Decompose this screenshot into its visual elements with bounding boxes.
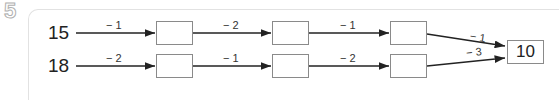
step-label: − 3 bbox=[465, 45, 482, 59]
answer-box[interactable] bbox=[272, 54, 309, 78]
result-box: 10 bbox=[507, 40, 544, 64]
step-label: − 1 bbox=[106, 19, 122, 31]
step-label: − 1 bbox=[340, 19, 356, 31]
step-label: − 2 bbox=[106, 52, 122, 64]
step-label: − 1 bbox=[223, 52, 239, 64]
answer-box[interactable] bbox=[390, 21, 427, 45]
start-value-row-1: 15 bbox=[48, 23, 69, 43]
answer-box[interactable] bbox=[156, 54, 193, 78]
answer-box[interactable] bbox=[156, 21, 193, 45]
answer-box[interactable] bbox=[390, 54, 427, 78]
start-value-row-2: 18 bbox=[48, 56, 69, 76]
step-label: − 2 bbox=[223, 19, 239, 31]
step-label: − 1 bbox=[469, 30, 486, 44]
step-label: − 2 bbox=[340, 52, 356, 64]
answer-box[interactable] bbox=[272, 21, 309, 45]
